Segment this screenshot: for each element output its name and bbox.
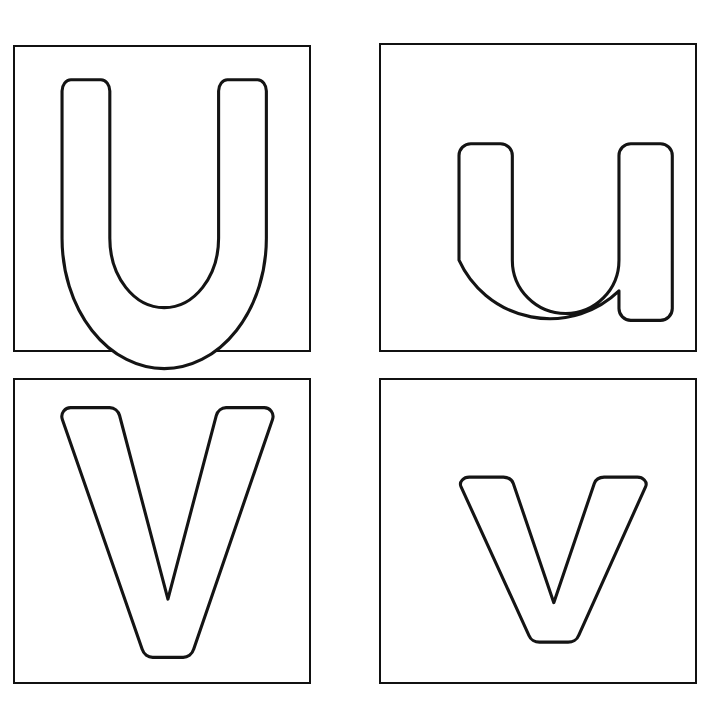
- small-letter-v-icon: [381, 380, 695, 682]
- letter-card-lowercase-u[interactable]: u: [379, 43, 697, 352]
- letter-card-lowercase-v[interactable]: v: [379, 378, 697, 684]
- capital-letter-v-icon: [15, 380, 309, 682]
- small-letter-u-icon: [381, 45, 695, 350]
- capital-letter-u-icon: [15, 47, 309, 350]
- letter-card-uppercase-v[interactable]: V: [13, 378, 311, 684]
- letter-card-uppercase-u[interactable]: U: [13, 45, 311, 352]
- letter-worksheet: Letter Tracing Worksheet U V U u V v: [0, 0, 716, 721]
